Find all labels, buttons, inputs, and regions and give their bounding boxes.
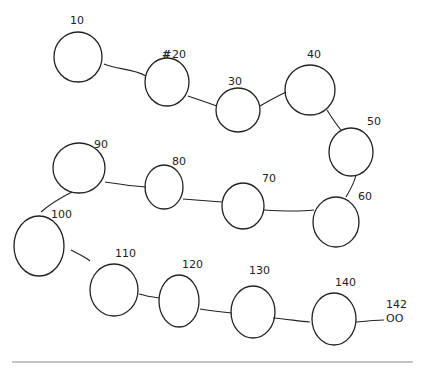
node-70: 70: [222, 172, 276, 229]
node-label: 100: [51, 208, 72, 221]
node-110: 110: [90, 247, 138, 316]
node-circle: [222, 183, 264, 229]
node-10: 10: [54, 14, 102, 82]
edge-n10-n20: [104, 64, 146, 76]
edge-n110-n120: [139, 294, 159, 298]
edge-n50-n60: [346, 175, 356, 197]
node-circle: [90, 264, 138, 316]
node-130: 130: [231, 264, 275, 338]
scribble-mark: #: [162, 48, 171, 61]
node-100: 100: [14, 208, 72, 276]
node-label: 130: [249, 264, 270, 277]
edge-n140-tail: [356, 320, 384, 322]
node-circle: [159, 275, 199, 327]
node-label: 10: [70, 14, 84, 27]
edge-n60-n70: [264, 210, 314, 211]
edge-n20-n30: [188, 96, 217, 106]
node-label: 90: [94, 138, 108, 151]
node-label: 20: [172, 48, 186, 61]
edge-layer: [41, 64, 384, 322]
node-label: 110: [115, 247, 136, 260]
node-layer: 1020#30405060708090100110120130140: [14, 14, 381, 345]
node-label: 80: [172, 155, 186, 168]
node-label: 30: [228, 75, 242, 88]
node-label: 70: [262, 172, 276, 185]
node-circle: [216, 88, 260, 132]
edge-n130-n140: [273, 318, 310, 322]
node-120: 120: [159, 258, 203, 327]
edge-n40-n50: [327, 110, 341, 130]
node-label: 140: [335, 276, 356, 289]
node-circle: [329, 128, 373, 176]
node-circle: [285, 65, 335, 115]
node-60: 60: [313, 190, 372, 247]
node-30: 30: [216, 75, 260, 132]
edge-n30-n40: [260, 92, 286, 106]
edge-n80-n90: [105, 182, 146, 187]
node-label: 50: [367, 115, 381, 128]
linked-node-diagram: 1020#30405060708090100110120130140 142 O…: [0, 0, 425, 370]
edge-n100-n110: [71, 250, 90, 261]
tail-null-marker: OO: [386, 312, 404, 325]
node-140: 140: [312, 276, 356, 345]
tail-label: 142: [386, 298, 407, 311]
node-40: 40: [285, 48, 335, 115]
node-circle: [231, 286, 275, 338]
node-label: 60: [358, 190, 372, 203]
node-circle: [145, 58, 189, 106]
node-20: 20#: [145, 48, 189, 106]
edge-n120-n130: [200, 309, 232, 313]
node-label: 120: [182, 258, 203, 271]
chain-tail: 142 OO: [386, 298, 407, 325]
edge-n70-n80: [183, 199, 222, 202]
node-80: 80: [145, 155, 186, 209]
node-circle: [313, 197, 359, 247]
node-circle: [145, 165, 183, 209]
node-circle: [312, 293, 356, 345]
node-circle: [54, 32, 102, 82]
node-90: 90: [53, 138, 108, 193]
node-label: 40: [307, 48, 321, 61]
node-circle: [14, 216, 64, 276]
